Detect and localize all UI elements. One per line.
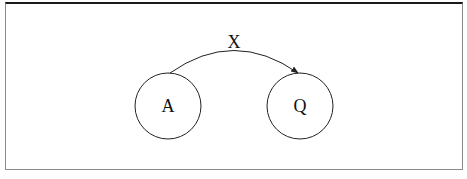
edge-arc [170,51,298,74]
state-diagram: X A Q [0,0,467,179]
node-q-label: Q [294,96,307,116]
node-a-label: A [162,96,175,116]
edge-label-x: X [228,32,241,52]
edge-a-to-q: X [170,32,298,73]
node-q: Q [267,73,333,139]
node-a: A [135,73,201,139]
